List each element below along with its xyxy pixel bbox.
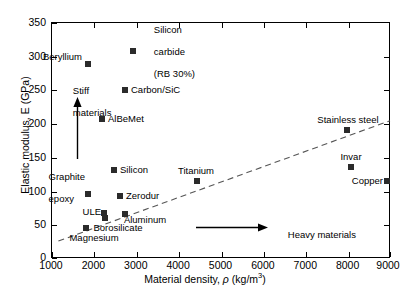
annotation-heavy-text: Heavy materials [288, 229, 356, 240]
xtick-7000 [306, 252, 307, 257]
xtick-6000 [264, 252, 265, 257]
label-aluminum: Aluminum [124, 215, 166, 226]
label-beryllium: Beryllium [43, 52, 82, 63]
xticklabel-6000: 6000 [251, 260, 274, 271]
marker-graphite-epoxy [85, 191, 91, 197]
yticklabel-50-text: 50 [34, 218, 46, 230]
annotation-stiff-line1: Stiff [73, 85, 89, 96]
marker-copper [384, 178, 390, 184]
label-carbon-sic: Carbon/SiC [131, 85, 180, 96]
marker-zerodur [117, 193, 123, 199]
yticklabel-0-text: 0 [40, 251, 46, 263]
xtick-3000 [137, 252, 138, 257]
yticklabel-250-text: 250 [28, 83, 46, 95]
xticklabel-3000-text: 3000 [124, 259, 147, 271]
xtick-top-8000 [349, 23, 350, 28]
xticklabel-7000-text: 7000 [294, 259, 317, 271]
label-titanium: Titanium [178, 166, 214, 177]
yticklabel-150-text: 150 [28, 150, 46, 162]
ytick-50 [52, 225, 57, 226]
marker-invar [348, 164, 354, 170]
xtick-top-2000 [94, 23, 95, 28]
label-stainless-steel-text: Stainless steel [317, 114, 378, 125]
scatter-chart-figure: Beryllium Silicon carbide (RB 30%) Carbo… [0, 0, 410, 289]
xtick-top-5000 [222, 23, 223, 28]
xticklabel-2000: 2000 [82, 260, 105, 271]
xticklabel-8000: 8000 [336, 260, 359, 271]
label-zerodur-text: Zerodur [126, 190, 159, 201]
label-stainless-steel: Stainless steel [317, 115, 378, 126]
label-titanium-text: Titanium [178, 165, 214, 176]
label-zerodur: Zerodur [126, 191, 159, 202]
label-copper: Copper [352, 175, 383, 186]
ytick-right-250 [384, 90, 389, 91]
x-axis-label-units-pre: (kg/m [229, 273, 258, 285]
marker-stainless-steel [344, 127, 350, 133]
yticklabel-350-text: 350 [28, 16, 46, 28]
plot-area: Beryllium Silicon carbide (RB 30%) Carbo… [51, 22, 390, 258]
xticklabel-4000: 4000 [166, 260, 189, 271]
y-axis-label: Elastic modulus, E (GPa) [19, 15, 31, 255]
label-albemet: AlBeMet [108, 114, 144, 125]
xticklabel-6000-text: 6000 [251, 259, 274, 271]
annotation-heavy-materials: Heavy materials [272, 219, 356, 251]
label-graphite-line2: epoxy [49, 193, 74, 204]
label-albemet-text: AlBeMet [108, 113, 144, 124]
xticklabel-9000-text: 9000 [376, 259, 399, 271]
label-silicon-carbide-line2: carbide [154, 46, 185, 57]
xticklabel-5000: 5000 [209, 260, 232, 271]
label-beryllium-text: Beryllium [43, 51, 82, 62]
label-ule-text: ULE [83, 206, 101, 217]
label-silicon-carbide-line3: (RB 30%) [154, 68, 195, 79]
ytick-right-300 [384, 57, 389, 58]
label-silicon-carbide: Silicon carbide (RB 30%) [138, 13, 195, 90]
xtick-1000 [52, 252, 53, 257]
label-magnesium-text: Magnesium [69, 232, 118, 243]
arrow-up-stiff [72, 97, 83, 159]
xtick-5000 [222, 252, 223, 257]
label-silicon-text: Silicon [120, 164, 148, 175]
y-axis-label-text: Elastic modulus, E (GPa) [19, 76, 31, 193]
xtick-top-7000 [306, 23, 307, 28]
label-silicon-carbide-line1: Silicon [154, 24, 182, 35]
xticklabel-2000-text: 2000 [82, 259, 105, 271]
yticklabel-300-text: 300 [28, 49, 46, 61]
ytick-right-150 [384, 158, 389, 159]
xtick-9000 [390, 252, 391, 257]
x-axis-label-units-post: ) [262, 273, 266, 285]
label-magnesium: Magnesium [69, 233, 118, 244]
ytick-right-50 [384, 225, 389, 226]
ytick-right-200 [384, 124, 389, 125]
marker-carbon-sic [122, 87, 128, 93]
label-copper-text: Copper [352, 174, 383, 185]
label-invar-text: Invar [340, 151, 361, 162]
label-silicon: Silicon [120, 165, 148, 176]
ytick-350 [52, 23, 57, 24]
xtick-8000 [349, 252, 350, 257]
label-carbon-sic-text: Carbon/SiC [131, 84, 180, 95]
xtick-4000 [179, 252, 180, 257]
x-axis-label-prefix: Material density, [144, 273, 223, 285]
marker-silicon [111, 167, 117, 173]
marker-silicon-carbide [130, 48, 136, 54]
marker-titanium [194, 178, 200, 184]
label-graphite-line1: Graphite [49, 171, 85, 182]
ytick-right-100 [384, 192, 389, 193]
label-ule: ULE [83, 207, 101, 218]
marker-beryllium [85, 61, 91, 67]
xticklabel-7000: 7000 [294, 260, 317, 271]
xticklabel-8000-text: 8000 [336, 259, 359, 271]
x-axis-label: Material density, ρ (kg/m3) [0, 271, 410, 285]
annotation-stiff-materials: Stiff materials [57, 74, 111, 129]
xticklabel-3000: 3000 [124, 260, 147, 271]
arrow-right-heavy [196, 219, 268, 230]
xticklabel-5000-text: 5000 [209, 259, 232, 271]
xtick-top-6000 [264, 23, 265, 28]
marker-magnesium [83, 225, 89, 231]
xticklabel-4000-text: 4000 [166, 259, 189, 271]
label-aluminum-text: Aluminum [124, 214, 166, 225]
yticklabel-200-text: 200 [28, 117, 46, 129]
xtick-2000 [94, 252, 95, 257]
yticklabel-100-text: 100 [28, 184, 46, 196]
marker-borosilicate [102, 215, 108, 221]
